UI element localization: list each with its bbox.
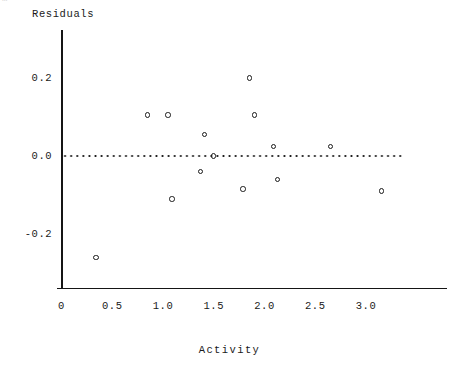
scatter-point bbox=[198, 169, 203, 174]
y-axis-title: Residuals bbox=[32, 8, 94, 20]
corner-text-fragment: … bbox=[2, 0, 8, 4]
x-tick-label: 2.0 bbox=[254, 300, 274, 312]
scatter-point bbox=[271, 144, 276, 149]
residual-scatter-chart: … Residuals Activity 0.20.0-0.200.51.01.… bbox=[0, 0, 459, 379]
x-tick-label: 1.5 bbox=[204, 300, 224, 312]
scatter-point bbox=[145, 112, 150, 117]
scatter-point bbox=[252, 112, 257, 117]
scatter-point bbox=[93, 255, 98, 260]
x-tick-label: 2.5 bbox=[305, 300, 325, 312]
scatter-point bbox=[328, 144, 333, 149]
scatter-point bbox=[275, 177, 280, 182]
zero-reference-line bbox=[62, 155, 402, 157]
scatter-point bbox=[247, 75, 252, 80]
x-tick-label: 0 bbox=[58, 300, 65, 312]
y-tick-label: -0.2 bbox=[6, 228, 52, 240]
scatter-point bbox=[379, 188, 384, 193]
x-axis-title: Activity bbox=[0, 344, 459, 356]
y-tick-label: 0.0 bbox=[6, 150, 52, 162]
scatter-point bbox=[240, 186, 245, 191]
y-tick-label: 0.2 bbox=[6, 72, 52, 84]
scatter-point bbox=[165, 112, 170, 117]
x-tick-label: 3.0 bbox=[356, 300, 376, 312]
y-axis-line bbox=[61, 30, 63, 289]
plot-area bbox=[0, 0, 459, 379]
scatter-point bbox=[169, 196, 174, 201]
x-tick-label: 0.5 bbox=[102, 300, 122, 312]
x-tick-label: 1.0 bbox=[153, 300, 173, 312]
scatter-point bbox=[211, 153, 216, 158]
x-axis-line bbox=[57, 288, 447, 289]
scatter-point bbox=[202, 132, 207, 137]
